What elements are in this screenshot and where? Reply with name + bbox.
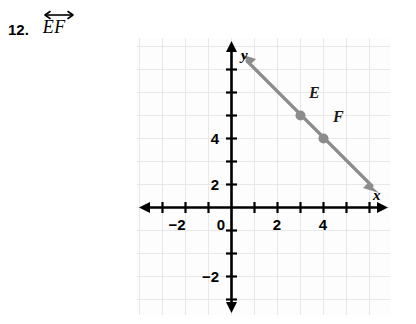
line-name-label: EF — [43, 17, 66, 37]
point-e-label: E — [308, 84, 320, 101]
point-f — [319, 134, 329, 144]
x-tick-label-4: 4 — [319, 216, 328, 233]
x-axis-label: x — [372, 187, 381, 203]
y-tick-label-neg2: −2 — [202, 268, 219, 285]
x-tick-label-neg2: −2 — [168, 216, 185, 233]
y-axis-label: y — [239, 47, 248, 63]
graph-svg: E F −2 0 2 4 4 2 −2 y x — [137, 38, 390, 315]
x-tick-label-2: 2 — [273, 216, 281, 233]
line-notation: EF — [43, 8, 66, 37]
problem-number: 12. — [8, 8, 29, 37]
y-tick-label-4: 4 — [211, 130, 220, 147]
point-f-label: F — [332, 108, 344, 125]
point-e — [296, 111, 306, 121]
y-tick-label-2: 2 — [211, 176, 219, 193]
double-headed-arrow-icon — [41, 10, 77, 20]
x-tick-label-0: 0 — [217, 216, 225, 233]
coordinate-graph: E F −2 0 2 4 4 2 −2 y x — [137, 38, 390, 315]
problem-header: 12. EF — [8, 8, 66, 37]
